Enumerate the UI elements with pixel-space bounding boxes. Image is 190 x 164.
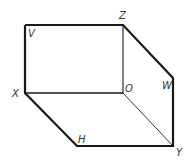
label-v: V bbox=[28, 28, 36, 39]
projection-diagram: V Z W X O H Y bbox=[0, 0, 190, 164]
outer-outline bbox=[25, 25, 173, 146]
label-x: X bbox=[11, 88, 20, 99]
label-o: O bbox=[125, 83, 133, 94]
edge-o-y bbox=[123, 93, 173, 146]
label-h: H bbox=[78, 134, 86, 145]
label-y: Y bbox=[176, 147, 183, 158]
label-w: W bbox=[162, 80, 173, 91]
label-z: Z bbox=[118, 10, 127, 21]
